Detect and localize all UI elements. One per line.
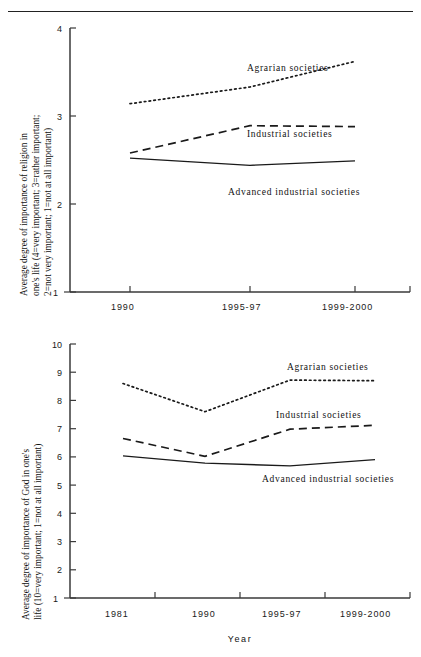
series-label-advanced-industrial: Advanced industrial societies [262,474,394,484]
y-tick-label-9: 9 [57,368,62,378]
y-axis-label-line-3: 2=not very important; 1=not at all impor… [43,128,54,296]
x-tick-label-1990: 1990 [192,609,216,619]
series-line-advanced-industrial [123,456,375,466]
top-horizontal-rule [8,11,413,12]
x-axis-ticks [130,286,410,292]
chart-god-importance: Average degree of importance of God in o… [0,330,421,657]
series-label-advanced-industrial: Advanced industrial societies [228,187,360,197]
series-label-agrarian: Agrarian societies [247,63,328,73]
series-line-agrarian [123,380,375,412]
chart-top-y-axis-label: Average degree of importance of religion… [19,115,54,296]
chart-bottom-y-axis-label: Average degree of importance of God in o… [21,444,44,620]
x-tick-label-1999-2000: 1999-2000 [340,609,391,619]
series-line-advanced-industrial [130,158,355,165]
y-tick-label-6: 6 [57,452,62,462]
y-axis-tick-labels: 4 3 2 1 [53,24,62,298]
y-tick-label-4: 4 [57,24,62,34]
x-axis-ticks [155,592,410,598]
y-tick-label-2: 2 [57,565,62,575]
x-tick-label-1995-97: 1995-97 [222,302,261,312]
chart-bottom-svg: Average degree of importance of God in o… [0,330,421,657]
x-tick-label-1990: 1990 [111,302,135,312]
y-tick-label-8: 8 [57,396,62,406]
y-tick-label-5: 5 [57,481,62,491]
y-tick-label-2: 2 [57,200,62,210]
y-axis-label-line-2: life (10=very important; 1=not at all im… [33,444,44,620]
y-tick-label-7: 7 [57,424,62,434]
series-label-industrial: Industrial societies [276,410,362,420]
y-tick-label-4: 4 [57,509,62,519]
y-tick-label-3: 3 [57,112,62,122]
y-axis-tick-labels: 10 9 8 7 6 5 4 3 2 1 [52,340,62,604]
figure-page: Average degree of importance of religion… [0,0,421,657]
y-tick-label-3: 3 [57,537,62,547]
chart-religion-importance: Average degree of importance of religion… [0,18,421,318]
x-axis-title: Year [228,634,253,644]
series-line-industrial [123,425,375,456]
y-tick-label-10: 10 [52,340,62,350]
y-axis-label-line-1: Average degree of importance of religion… [19,133,29,296]
y-axis-label-line-2: one's life (4=very important; 3=rather i… [31,115,42,296]
series-label-industrial: Industrial societies [247,129,333,139]
x-axis-tick-labels: 1990 1995-97 1999-2000 [111,302,373,312]
x-tick-label-1999-2000: 1999-2000 [322,302,373,312]
x-tick-label-1981: 1981 [105,609,129,619]
x-axis-tick-labels: 1981 1990 1995-97 1999-2000 [105,609,391,619]
chart-top-svg: Average degree of importance of religion… [0,18,421,318]
x-tick-label-1995-97: 1995-97 [262,609,301,619]
y-tick-label-1: 1 [53,288,58,298]
y-tick-label-1: 1 [53,594,58,604]
series-label-agrarian: Agrarian societies [287,362,368,372]
y-axis-label-line-1: Average degree of importance of God in o… [21,449,31,620]
